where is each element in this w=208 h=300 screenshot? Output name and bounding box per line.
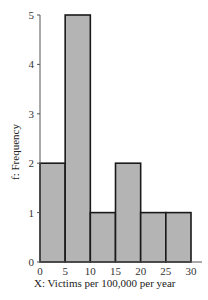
y-tick-label: 4 [29,58,35,70]
x-tick-label: 30 [186,265,198,277]
histogram-bar [40,163,65,262]
y-axis-label: f: Frequency [9,124,21,180]
x-tick-label: 15 [110,265,122,277]
x-tick-label: 20 [135,265,147,277]
x-tick-label: 10 [85,265,97,277]
x-axis-label: X: Victims per 100,000 per year [34,277,176,289]
y-tick-label: 3 [29,108,35,120]
histogram-bar [90,213,115,262]
y-tick-label: 0 [29,256,35,268]
histogram-bar [166,213,191,262]
y-tick-label: 1 [29,207,35,219]
histogram-bar [141,213,166,262]
histogram-bar [116,163,141,262]
histogram-bars [40,15,191,262]
x-axis-ticks: 051015202530 [37,265,197,277]
x-tick-label: 5 [62,265,68,277]
histogram-chart: 012345 051015202530 f: Frequency X: Vict… [0,0,208,300]
y-tick-label: 5 [29,9,35,21]
x-tick-label: 25 [160,265,172,277]
y-axis-ticks: 012345 [29,9,41,268]
histogram-bar [65,15,90,262]
y-tick-label: 2 [29,157,35,169]
x-tick-label: 0 [37,265,43,277]
